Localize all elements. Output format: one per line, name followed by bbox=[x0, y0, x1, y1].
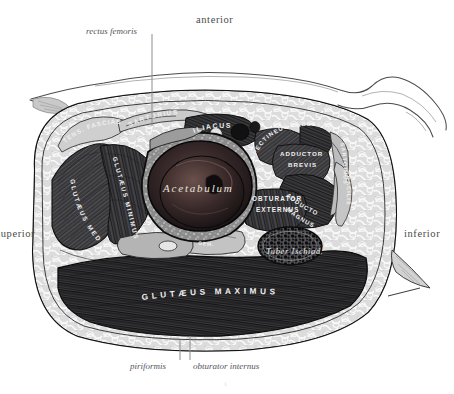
anatomical-plate: TENS. FASCIAE SARTORIUS ILIACUS GLUTÆUS … bbox=[0, 0, 454, 394]
cross-section-illustration: TENS. FASCIAE SARTORIUS ILIACUS GLUTÆUS … bbox=[0, 0, 454, 394]
orientation-inferior: inferior bbox=[404, 228, 440, 239]
label-obturator-externus-line1: OBTURATOR bbox=[252, 195, 302, 202]
callout-rectus-femoris: rectus femoris bbox=[86, 26, 137, 36]
orientation-superior: superior bbox=[0, 228, 35, 239]
plate-page-mark: 1 bbox=[224, 381, 227, 387]
orientation-anterior: anterior bbox=[196, 14, 233, 25]
label-obturator-externus-line2: EXTERNUS bbox=[256, 206, 300, 213]
label-adductor-brevis-line2: BREVIS bbox=[288, 161, 317, 168]
label-acetabulum: Acetabulum bbox=[162, 182, 234, 194]
label-adductor-brevis-line1: ADDUCTOR bbox=[280, 150, 323, 157]
sciatic-nerve bbox=[159, 241, 177, 251]
femoral-vein bbox=[231, 124, 249, 140]
callout-piriformis: piriformis bbox=[130, 361, 166, 371]
callout-obturator-internus: obturator internus bbox=[193, 361, 259, 371]
label-tuber-ischiadicum: Tuber Ischiad. bbox=[266, 246, 324, 256]
